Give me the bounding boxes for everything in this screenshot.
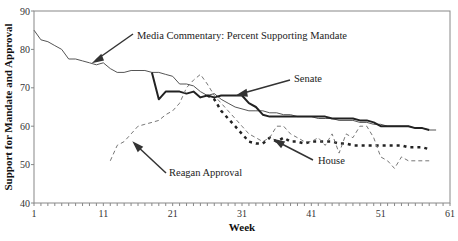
series-line-senate (152, 72, 429, 130)
arrowhead-house-icon (275, 140, 284, 147)
y-tick-label: 50 (20, 159, 30, 170)
y-tick-label: 60 (20, 121, 30, 132)
x-tick-label: 51 (376, 208, 386, 219)
x-tick-label: 21 (168, 208, 178, 219)
y-axis-ticks: 405060708090 (20, 6, 34, 209)
y-tick-label: 80 (20, 44, 30, 55)
x-tick-label: 11 (99, 208, 109, 219)
annotation-media: Media Commentary: Percent Supporting Man… (137, 30, 347, 41)
y-tick-label: 70 (20, 82, 30, 93)
series-line-reagan-approval (110, 74, 429, 168)
annotation-arrows (94, 32, 313, 173)
annotation-reagan: Reagan Approval (169, 167, 242, 178)
y-tick-label: 40 (20, 198, 30, 209)
x-tick-label: 1 (32, 208, 37, 219)
arrowhead-senate-icon (238, 90, 247, 96)
arrowhead-media-icon (94, 55, 103, 62)
arrow-senate (240, 80, 290, 94)
x-tick-label: 61 (445, 208, 455, 219)
x-tick-label: 41 (306, 208, 316, 219)
x-axis-ticks: 1112131415161 (32, 203, 456, 219)
x-tick-label: 31 (237, 208, 247, 219)
series-group (34, 30, 436, 168)
series-line-house (207, 96, 429, 150)
annotation-senate: Senate (294, 73, 322, 84)
annotation-house: House (318, 155, 345, 166)
x-axis-title: Week (229, 221, 256, 233)
series-line-media-commentary-percent-supporting-mandate (34, 30, 436, 130)
line-chart: 405060708090 1112131415161 Media Comment… (0, 0, 458, 241)
y-tick-label: 90 (20, 6, 30, 17)
y-axis-title: Support for Mandate and Approval (2, 23, 14, 190)
